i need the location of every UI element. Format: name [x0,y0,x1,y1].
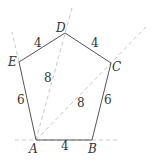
pentagon-diagram: A B C D E 4 6 4 4 6 8 8 [0,0,152,161]
diagonal-label-ad: 8 [44,71,52,85]
side-label-de: 4 [34,36,42,50]
side-label-ea: 6 [17,93,25,107]
vertex-label-a: A [28,142,38,156]
side-label-bc: 6 [104,93,112,107]
vertex-label-e: E [7,55,17,69]
diagonal-label-ac: 8 [77,96,85,110]
side-label-ab: 4 [61,139,69,153]
side-label-cd: 4 [91,36,99,50]
vertex-label-c: C [112,60,121,74]
vertex-label-b: B [87,142,97,156]
vertex-label-d: D [55,21,66,35]
diagonal-ad-extended-dashed [36,8,72,140]
